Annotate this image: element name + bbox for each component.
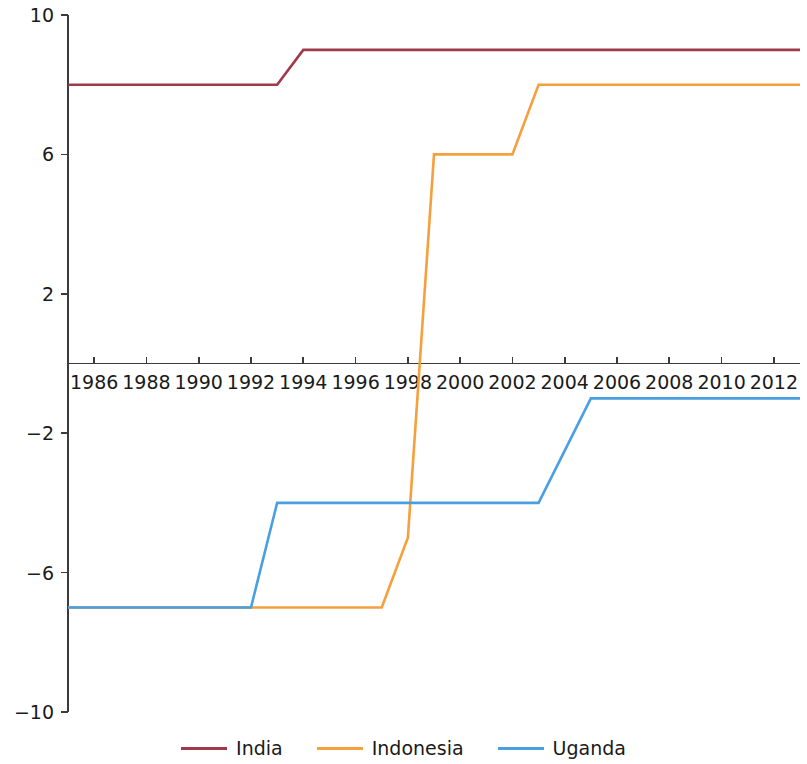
- series-line-uganda: [68, 398, 800, 607]
- x-tick-label: 2012: [750, 371, 798, 393]
- y-axis: 1062−2−6−10: [14, 4, 68, 723]
- series-lines: [68, 50, 800, 608]
- x-tick-label: 1992: [227, 371, 275, 393]
- x-tick-label: 2010: [697, 371, 745, 393]
- legend-item-uganda[interactable]: Uganda: [498, 739, 626, 758]
- x-tick-label: 2008: [645, 371, 693, 393]
- x-tick-label: 1996: [331, 371, 379, 393]
- y-tick-label: −2: [26, 422, 54, 444]
- legend-item-indonesia[interactable]: Indonesia: [317, 739, 464, 758]
- legend-swatch-indonesia: [317, 747, 363, 750]
- x-axis: 1986198819901992199419961998200020022004…: [68, 357, 800, 393]
- x-tick-label: 1998: [384, 371, 432, 393]
- x-tick-label: 2006: [593, 371, 641, 393]
- legend-swatch-uganda: [498, 747, 544, 750]
- x-tick-label: 1986: [70, 371, 118, 393]
- y-tick-label: −10: [14, 701, 54, 723]
- x-tick-label: 1988: [122, 371, 170, 393]
- line-chart-plot: 1062−2−6−10 1986198819901992199419961998…: [0, 0, 807, 764]
- y-tick-label: −6: [26, 562, 54, 584]
- chart-legend: IndiaIndonesiaUganda: [0, 739, 807, 758]
- y-tick-label: 2: [42, 283, 54, 305]
- legend-label-uganda: Uganda: [553, 739, 626, 758]
- x-tick-label: 2004: [541, 371, 589, 393]
- x-tick-label: 2002: [488, 371, 536, 393]
- legend-label-india: India: [236, 739, 283, 758]
- x-tick-label: 1990: [175, 371, 223, 393]
- y-tick-label: 10: [30, 4, 54, 26]
- legend-item-india[interactable]: India: [181, 739, 283, 758]
- legend-label-indonesia: Indonesia: [372, 739, 464, 758]
- x-tick-label: 2000: [436, 371, 484, 393]
- y-tick-label: 6: [42, 143, 54, 165]
- series-line-india: [68, 50, 800, 85]
- series-line-indonesia: [68, 85, 800, 608]
- legend-swatch-india: [181, 747, 227, 750]
- x-tick-label: 1994: [279, 371, 327, 393]
- chart-container: 1062−2−6−10 1986198819901992199419961998…: [0, 0, 807, 764]
